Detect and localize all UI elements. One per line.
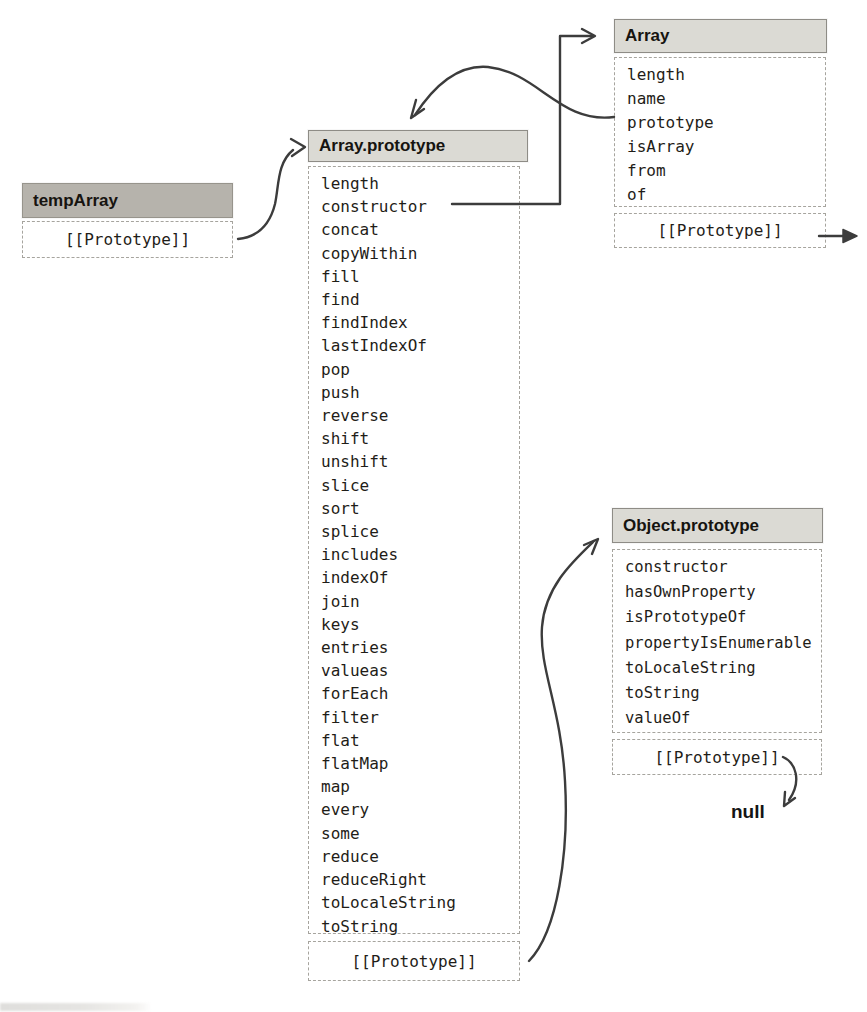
property-item: every — [321, 798, 519, 821]
property-item: indexOf — [321, 566, 519, 589]
property-item: prototype — [627, 111, 825, 135]
edge-array-prototype-proto-to-object-prototype-line — [529, 541, 594, 961]
property-item: slice — [321, 474, 519, 497]
edge-constructor-to-array-arrowhead-icon — [582, 29, 595, 43]
property-item: push — [321, 381, 519, 404]
property-item: entries — [321, 636, 519, 659]
property-item: toLocaleString — [625, 656, 821, 681]
array-prototype-proto-slot-label: [[Prototype]] — [351, 952, 476, 971]
property-item: findIndex — [321, 311, 519, 334]
array-proto-slot: [[Prototype]] — [614, 213, 826, 248]
property-item: copyWithin — [321, 242, 519, 265]
property-item: fill — [321, 265, 519, 288]
object-prototype-header: Object.prototype — [612, 508, 823, 543]
array-header: Array — [614, 19, 827, 53]
edge-prototype-property-to-array-prototype-arrowhead-icon — [411, 100, 424, 118]
object-prototype-members: constructorhasOwnPropertyisPrototypeOfpr… — [612, 549, 822, 733]
property-item: map — [321, 775, 519, 798]
property-item: includes — [321, 543, 519, 566]
property-item: hasOwnProperty — [625, 580, 821, 605]
property-item: some — [321, 822, 519, 845]
edge-array-prototype-proto-to-object-prototype-arrowhead-icon — [584, 539, 598, 554]
property-item: reverse — [321, 404, 519, 427]
property-item: filter — [321, 706, 519, 729]
property-item: sort — [321, 497, 519, 520]
temparray-proto-slot-label: [[Prototype]] — [65, 230, 190, 249]
property-item: length — [321, 172, 519, 195]
property-item: valueas — [321, 659, 519, 682]
edge-temparray-to-array-prototype-line — [238, 150, 293, 239]
edge-prototype-property-to-array-prototype-line — [415, 67, 614, 118]
property-item: join — [321, 590, 519, 613]
property-item: shift — [321, 427, 519, 450]
property-item: constructor — [625, 555, 821, 580]
cropped-caption-artifact — [0, 1003, 152, 1011]
edge-object-prototype-proto-to-null-arrowhead-icon — [784, 792, 795, 806]
property-item: propertyIsEnumerable — [625, 631, 821, 656]
property-item: toString — [321, 915, 519, 938]
object-prototype-proto-slot-label: [[Prototype]] — [654, 748, 779, 767]
property-item: concat — [321, 218, 519, 241]
array-prototype-proto-slot: [[Prototype]] — [308, 941, 520, 981]
property-item: toLocaleString — [321, 891, 519, 914]
property-item: of — [627, 183, 825, 207]
array-prototype-members: lengthconstructorconcatcopyWithinfillfin… — [308, 166, 520, 934]
array-prototype-header: Array.prototype — [308, 130, 528, 162]
property-item: keys — [321, 613, 519, 636]
property-item: constructor — [321, 195, 519, 218]
property-item: unshift — [321, 450, 519, 473]
property-item: splice — [321, 520, 519, 543]
property-item: pop — [321, 358, 519, 381]
object-prototype-title: Object.prototype — [623, 516, 759, 536]
array-title: Array — [625, 26, 669, 46]
property-item: lastIndexOf — [321, 334, 519, 357]
property-item: reduceRight — [321, 868, 519, 891]
temparray-proto-slot: [[Prototype]] — [22, 221, 233, 258]
edge-temparray-to-array-prototype-arrowhead-icon — [291, 139, 305, 156]
property-item: isArray — [627, 135, 825, 159]
property-item: find — [321, 288, 519, 311]
property-item: isPrototypeOf — [625, 605, 821, 630]
temparray-title: tempArray — [33, 191, 118, 211]
temparray-header: tempArray — [22, 183, 233, 218]
array-prototype-title: Array.prototype — [319, 136, 445, 156]
prototype-chain-diagram: tempArray [[Prototype]] Array.prototype … — [0, 0, 867, 1012]
property-item: flatMap — [321, 752, 519, 775]
object-prototype-proto-slot: [[Prototype]] — [612, 739, 822, 775]
array-proto-slot-label: [[Prototype]] — [657, 221, 782, 240]
property-item: valueOf — [625, 706, 821, 731]
property-item: from — [627, 159, 825, 183]
array-members: lengthnameprototypeisArrayfromof — [614, 57, 826, 207]
property-item: name — [627, 87, 825, 111]
property-item: forEach — [321, 682, 519, 705]
edge-array-proto-offpage-arrowhead-icon — [843, 230, 857, 243]
property-item: length — [627, 63, 825, 87]
property-item: toString — [625, 681, 821, 706]
null-label: null — [731, 801, 765, 823]
property-item: reduce — [321, 845, 519, 868]
property-item: flat — [321, 729, 519, 752]
